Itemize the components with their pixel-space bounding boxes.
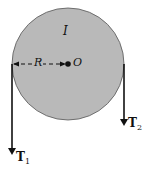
- tension-t2-label: T2: [128, 116, 142, 132]
- arrowhead-t2: [120, 119, 128, 126]
- moment-of-inertia-label: I: [63, 24, 68, 38]
- tension-t2-symbol: T: [128, 116, 137, 130]
- radius-label: R: [33, 56, 43, 69]
- center-point: [65, 61, 71, 67]
- tension-t1-label: T1: [16, 150, 30, 166]
- tension-t1-symbol: T: [16, 150, 25, 164]
- tension-t2-subscript: 2: [137, 123, 142, 132]
- center-label: O: [73, 56, 82, 69]
- tension-t1-subscript: 1: [25, 157, 30, 166]
- arrowhead-t1: [8, 148, 16, 155]
